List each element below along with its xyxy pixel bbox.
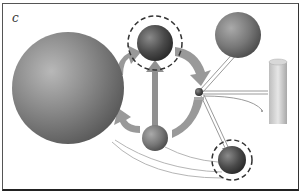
network-diagram bbox=[0, 0, 303, 195]
small-dot bbox=[261, 110, 263, 112]
cylinder bbox=[269, 59, 287, 124]
hub-node bbox=[195, 88, 203, 96]
bottom-right-sphere bbox=[218, 146, 246, 174]
thin-lines bbox=[112, 140, 222, 178]
right-sphere bbox=[215, 12, 261, 58]
large-sphere bbox=[12, 32, 124, 144]
arrow-hub-to-center bbox=[172, 99, 203, 138]
hub-base bbox=[194, 97, 204, 100]
center-sphere bbox=[142, 125, 168, 151]
top-sphere bbox=[137, 25, 173, 61]
double-lines bbox=[200, 50, 268, 150]
